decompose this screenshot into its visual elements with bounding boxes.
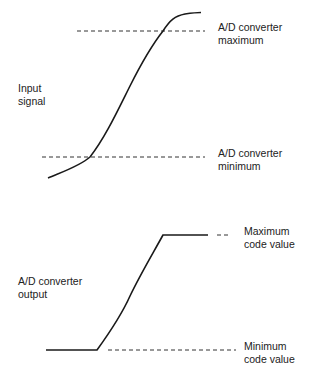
maximum-code-value-label: Maximum code value — [244, 225, 295, 250]
adc-minimum-label: A/D converter minimum — [218, 147, 282, 172]
minimum-code-value-label: Minimum code value — [244, 340, 295, 365]
input-signal-curve — [48, 13, 201, 179]
input-signal-label: Input signal — [18, 82, 45, 107]
adc-output-label: A/D converter output — [18, 275, 82, 300]
ad-conversion-diagram — [0, 0, 309, 370]
adc-maximum-label: A/D converter maximum — [218, 21, 282, 46]
